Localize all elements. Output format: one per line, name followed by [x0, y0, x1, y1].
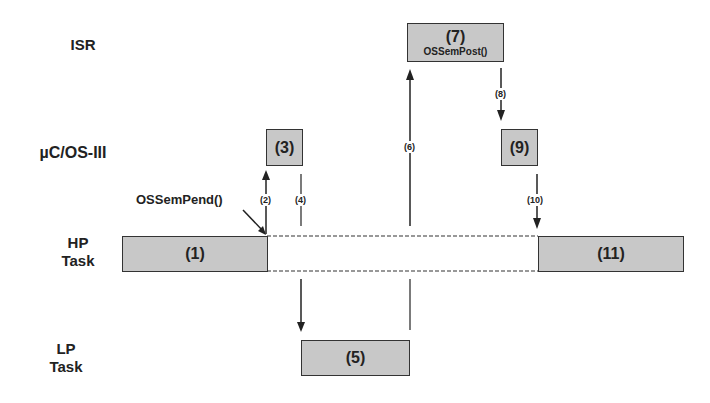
step-6-label: (6): [404, 141, 415, 153]
box-3-label: (3): [275, 139, 295, 157]
step-10-label: (10): [527, 194, 543, 206]
lp-task-box-5: (5): [301, 340, 410, 376]
kernel-box-9: (9): [501, 129, 538, 166]
box-1-label: (1): [185, 245, 205, 263]
step-2-label: (2): [260, 194, 271, 206]
hp-task-box-11: (11): [538, 236, 684, 272]
hp-task-box-1: (1): [122, 236, 268, 272]
box-7-label: (7): [446, 28, 466, 46]
kernel-box-3: (3): [266, 129, 303, 166]
isr-box-7: (7) OSSemPost(): [407, 23, 504, 62]
box-11-label: (11): [597, 245, 625, 263]
box-5-label: (5): [346, 349, 366, 367]
ossempend-label: OSSemPend(): [136, 191, 246, 209]
box-7-sublabel: OSSemPost(): [424, 46, 488, 57]
box-9-label: (9): [510, 139, 530, 157]
step-8-label: (8): [495, 88, 506, 100]
step-4-label: (4): [295, 194, 306, 206]
